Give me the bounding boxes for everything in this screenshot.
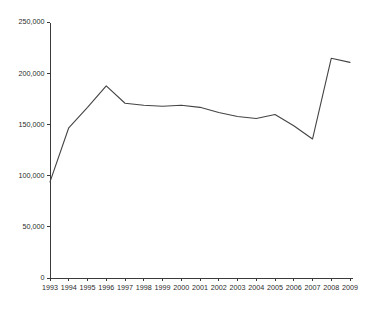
x-axis-tick-label: 2002 — [211, 283, 227, 292]
line-chart: 050,000100,000150,000200,000250,000 1993… — [0, 0, 375, 310]
x-axis-tick-label: 2007 — [305, 283, 321, 292]
x-axis-tick-label: 2006 — [286, 283, 302, 292]
x-axis-tick-label: 2000 — [173, 283, 189, 292]
x-axis-tick-label: 1995 — [80, 283, 96, 292]
x-axis-tick-label: 2004 — [248, 283, 264, 292]
chart-background — [0, 0, 375, 310]
x-axis-tick-label: 2003 — [230, 283, 246, 292]
y-axis-tick-label: 250,000 — [19, 17, 45, 26]
x-axis-tick-label: 1996 — [98, 283, 114, 292]
y-axis-tick-label: 150,000 — [19, 120, 45, 129]
y-axis-tick-label: 100,000 — [19, 171, 45, 180]
x-axis-tick-label: 1994 — [61, 283, 77, 292]
x-axis-tick-label: 1999 — [155, 283, 171, 292]
y-axis-tick-label: 0 — [41, 273, 45, 282]
x-axis-tick-label: 2009 — [342, 283, 358, 292]
x-axis-tick-label: 2001 — [192, 283, 208, 292]
x-axis-tick-label: 1993 — [42, 283, 58, 292]
x-axis-tick-label: 2005 — [267, 283, 283, 292]
x-axis-tick-label: 2008 — [323, 283, 339, 292]
chart-container: 050,000100,000150,000200,000250,000 1993… — [0, 0, 375, 310]
x-axis-tick-label: 1998 — [136, 283, 152, 292]
x-axis-tick-label: 1997 — [117, 283, 133, 292]
y-axis-tick-label: 200,000 — [19, 69, 45, 78]
y-axis-tick-label: 50,000 — [23, 222, 45, 231]
